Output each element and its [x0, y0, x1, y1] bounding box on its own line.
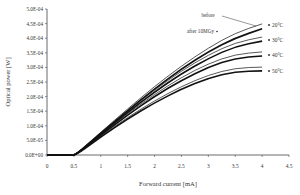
y-axis-label: Optical power [W]	[4, 57, 12, 106]
x-axis-ticks: 00.511.522.533.544.5	[46, 155, 293, 169]
series-line	[47, 71, 262, 155]
legend-label: 40°C	[272, 52, 284, 58]
y-axis-ticks: 0.0E+005.0E-051.0E-041.5E-042.0E-042.5E-…	[25, 6, 47, 158]
y-tick-label: 4.5E-04	[26, 21, 43, 27]
annotation-after: after 10MGy	[187, 28, 214, 34]
x-tick-label: 2	[153, 163, 156, 169]
x-tick-label: 0	[46, 163, 49, 169]
x-tick-label: 0.5	[71, 163, 78, 169]
y-tick-label: 4.0E-04	[26, 35, 43, 41]
annotation-marker-icon	[216, 31, 218, 33]
annotation-before: before	[201, 12, 215, 18]
x-tick-label: 3.5	[232, 163, 239, 169]
y-tick-label: 5.0E-05	[26, 137, 43, 143]
series-line	[47, 56, 262, 155]
y-tick-label: 2.5E-04	[26, 79, 43, 85]
chart-container: 0.0E+005.0E-051.0E-041.5E-042.0E-042.5E-…	[0, 0, 300, 195]
y-tick-label: 5.0E-04	[26, 6, 43, 12]
x-tick-label: 4	[261, 163, 264, 169]
legend-marker-icon	[268, 54, 270, 56]
legend-label: 30°C	[272, 37, 284, 43]
x-tick-label: 1.5	[124, 163, 131, 169]
y-tick-label: 1.0E-04	[26, 123, 43, 129]
legend-marker-icon	[268, 70, 270, 72]
y-tick-label: 2.0E-04	[26, 94, 43, 100]
y-tick-label: 1.5E-04	[26, 108, 43, 114]
x-tick-label: 2.5	[178, 163, 185, 169]
x-axis-label: Forward current [mA]	[139, 180, 197, 188]
x-tick-label: 4.5	[286, 163, 293, 169]
legend-label: 20°C	[272, 22, 284, 28]
series-line	[47, 67, 262, 155]
y-tick-label: 3.5E-04	[26, 50, 43, 56]
legend: 20°C30°C40°C50°C	[268, 22, 283, 74]
y-tick-label: 3.0E-04	[26, 64, 43, 70]
x-tick-label: 3	[207, 163, 210, 169]
legend-marker-icon	[268, 24, 270, 26]
legend-marker-icon	[268, 39, 270, 41]
y-tick-label: 0.0E+00	[25, 152, 43, 158]
x-tick-label: 1	[99, 163, 102, 169]
annotation-pointer	[222, 16, 256, 26]
legend-label: 50°C	[272, 68, 284, 74]
annotations: beforeafter 10MGy	[187, 12, 256, 34]
plot-series	[47, 24, 262, 155]
series-line	[47, 41, 262, 155]
